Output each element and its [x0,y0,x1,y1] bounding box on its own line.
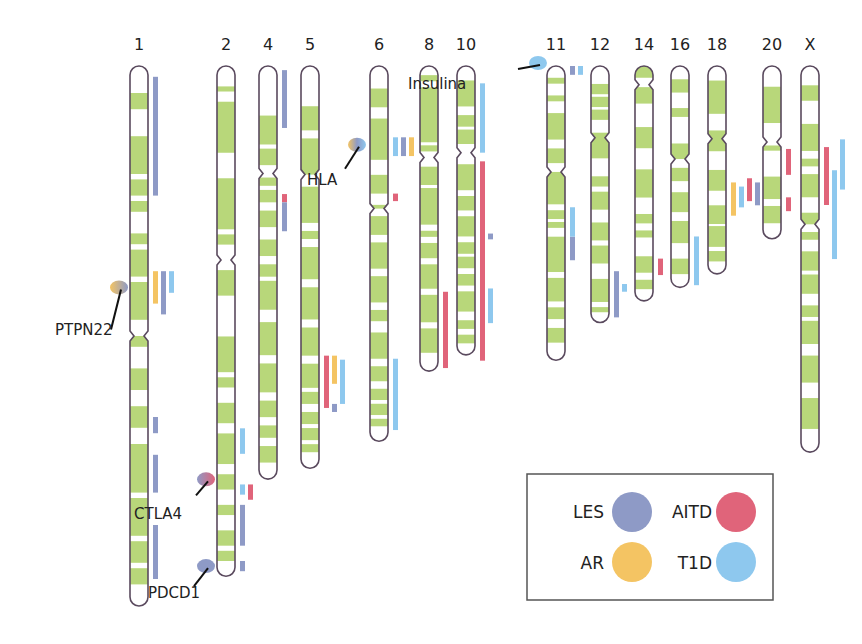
chromosome-band [591,176,609,186]
legend-label-aitd: AITD [672,502,712,522]
locus-aitd [658,259,663,275]
chromosome-band [370,419,388,427]
chromosome-band [763,206,781,223]
chromosome-band [457,196,475,210]
chromosome-band [801,174,819,197]
chromosome-band [708,81,726,114]
chromosome-band [259,322,277,355]
chromosome-band [547,278,565,302]
chromosome-label-8: 8 [424,35,434,54]
locus-les [153,77,158,196]
chromosome-band [370,332,388,358]
chromosome-band [547,148,565,163]
locus-t1d [169,271,174,293]
chromosome-band [801,398,819,429]
chromosome-band [801,232,819,240]
chromosome-band [708,251,726,261]
chromosome-band [130,250,148,277]
chromosome-16: 16 [670,35,690,287]
chromosome-band [301,231,319,239]
chromosome-band [217,505,235,515]
chromosome-band [547,113,565,139]
chromosome-x: X [801,35,819,452]
chromosome-band [420,167,438,185]
chromosome-band [301,287,319,319]
chromosome-band [801,159,819,167]
chromosome-band [130,541,148,563]
loci-chr-1 [153,77,174,579]
loci-chr-14 [658,259,663,275]
gene-marker-insulina: Insulina [408,56,547,93]
gene-blob-icon [110,280,128,294]
gene-marker-pdcd1: PDCD1 [148,559,215,602]
chromosome-band [259,116,277,145]
chromosome-2: 2 [217,35,235,576]
gene-marker-ptpn22: PTPN22 [55,280,128,339]
chromosome-band [591,222,609,240]
chromosome-band [301,428,319,440]
chromosome-band [420,188,438,225]
locus-aitd [393,194,398,202]
chromosome-label-14: 14 [634,35,654,54]
chromosome-label-5: 5 [305,35,315,54]
legend-swatch-les [612,492,652,532]
locus-les [161,271,166,314]
chromosome-band [671,108,689,117]
chromosome-band [591,97,609,107]
chromosome-band [801,274,819,293]
chromosome-band [708,205,726,224]
chromosome-band [259,363,277,392]
loci-chr-12 [614,271,627,317]
chromosome-band [420,145,438,151]
chromosome-band [420,295,438,322]
chromosome-band [259,446,277,463]
chromosome-label-4: 4 [263,35,273,54]
loci-chr-x [824,139,845,259]
chromosome-band [635,280,653,289]
loci-chr-5 [324,356,345,412]
locus-t1d [739,187,744,208]
chromosome-band [130,406,148,428]
chromosome-band [130,201,148,212]
locus-aitd [747,178,752,201]
loci-chr-6 [393,137,414,430]
chromosome-20: 20 [762,35,782,239]
chromosome-band [635,214,653,223]
chromosome-band [457,164,475,190]
chromosome-12: 12 [590,35,610,323]
chromosome-label-2: 2 [221,35,231,54]
chromosome-band [420,87,438,142]
locus-les [153,455,158,493]
chromosome-band [763,87,781,123]
locus-les [240,561,245,571]
gene-label-pdcd1: PDCD1 [148,584,200,602]
locus-aitd [324,356,329,408]
chromosome-band [259,190,277,202]
chromosome-6: 6 [370,35,388,441]
locus-les [570,237,575,261]
locus-t1d [480,83,485,152]
chromosome-label-x: X [805,35,816,54]
locus-les [153,417,158,433]
locus-les [755,182,760,205]
chromosome-label-6: 6 [374,35,384,54]
locus-ar [409,137,414,156]
chromosome-band [591,192,609,210]
locus-aitd [786,197,791,211]
chromosome-band [671,259,689,274]
legend-label-t1d: T1D [677,553,712,573]
chromosome-band [301,138,319,174]
chromosome-band [801,251,819,270]
chromosome-ideogram: 12456810111214161820X PTPN22CTLA4PDCD1HL… [0,0,862,644]
chromosome-band [457,242,475,254]
chromosome-band [130,179,148,195]
chromosome-band [130,233,148,244]
chromosome-band [370,175,388,194]
chromosome-band [801,356,819,383]
chromosome-band [259,264,277,276]
chromosome-band [457,320,475,329]
chromosome-band [708,170,726,191]
chromosome-band [591,246,609,264]
chromosome-band [301,412,319,424]
chromosome-band [301,327,319,355]
